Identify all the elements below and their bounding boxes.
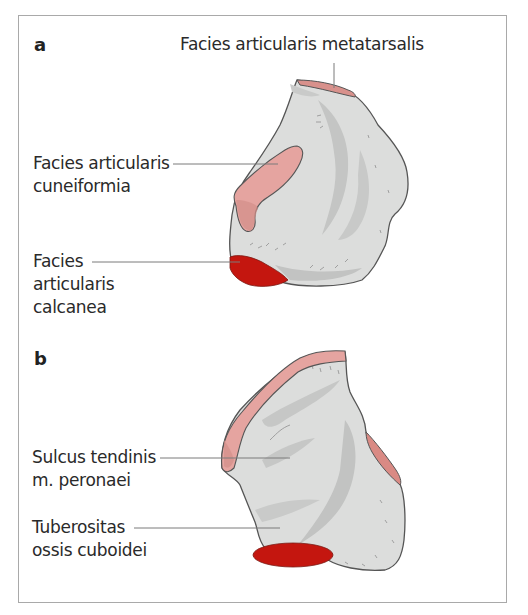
label-cuneiformia-line1: Facies articularis bbox=[33, 152, 170, 175]
panel-b-letter: b bbox=[34, 348, 47, 369]
label-sulcus-line1: Sulcus tendinis bbox=[32, 446, 156, 469]
label-calcanea-line3: calcanea bbox=[33, 296, 107, 319]
facet-cuboid-bottom bbox=[253, 543, 333, 567]
label-sulcus-line2: m. peronaei bbox=[32, 469, 131, 492]
bone-b bbox=[222, 351, 405, 571]
label-cuneiformia-line2: cuneiformia bbox=[33, 175, 131, 198]
panel-a-letter: a bbox=[34, 34, 46, 55]
label-calcanea-line1: Facies bbox=[33, 250, 83, 273]
bone-a bbox=[230, 80, 408, 286]
label-tuberositas-line1: Tuberositas bbox=[32, 516, 125, 539]
label-tuberositas-line2: ossis cuboidei bbox=[32, 539, 147, 562]
label-calcanea-line2: articularis bbox=[33, 273, 114, 296]
label-facies-articularis-metatarsalis: Facies articularis metatarsalis bbox=[180, 33, 424, 56]
